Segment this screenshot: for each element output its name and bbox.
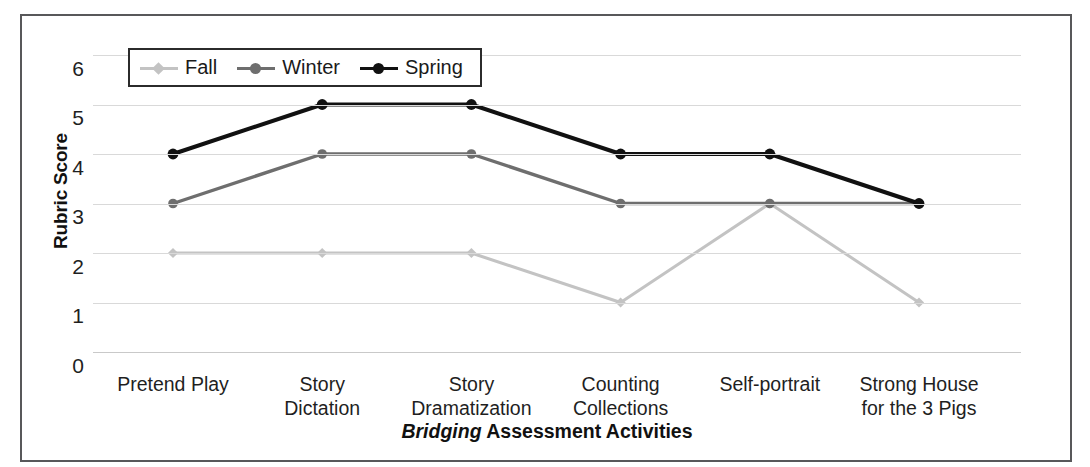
y-tick-4: 4 <box>58 157 84 178</box>
line-chart: Rubric Score 6 5 4 3 2 1 0 Pretend PlayS… <box>22 16 1072 462</box>
y-tick-1: 1 <box>58 305 84 326</box>
scan-artifact-strip <box>0 0 1090 9</box>
x-tick-label-5: Strong Housefor the 3 Pigs <box>824 372 1014 420</box>
gridline-1 <box>93 303 1021 304</box>
legend-swatch-fall-icon <box>140 61 178 75</box>
gridline-0 <box>93 352 1021 353</box>
x-axis-title: Bridging Assessment Activities <box>22 420 1072 443</box>
y-tick-6: 6 <box>58 58 84 79</box>
legend-marker-icon <box>373 63 384 74</box>
x-tick-label-line: for the 3 Pigs <box>824 396 1014 420</box>
legend-entry-fall[interactable]: Fall <box>140 56 217 79</box>
y-tick-2: 2 <box>58 256 84 277</box>
plot-area <box>93 55 1021 352</box>
legend-entry-spring[interactable]: Spring <box>360 56 463 79</box>
x-axis-title-rest: Assessment Activities <box>482 420 693 442</box>
legend-entry-winter[interactable]: Winter <box>237 56 340 79</box>
chart-legend: FallWinterSpring <box>128 48 482 87</box>
figure-frame: Rubric Score 6 5 4 3 2 1 0 Pretend PlayS… <box>20 14 1072 462</box>
x-tick-label-line: Strong House <box>824 372 1014 396</box>
x-tick-label-line: Collections <box>526 396 716 420</box>
legend-label-winter: Winter <box>282 56 340 79</box>
gridline-4 <box>93 154 1021 155</box>
legend-label-fall: Fall <box>185 56 217 79</box>
legend-marker-icon <box>250 63 261 74</box>
gridline-3 <box>93 204 1021 205</box>
legend-swatch-spring-icon <box>360 61 398 75</box>
y-tick-5: 5 <box>58 107 84 128</box>
x-axis-tick-labels: Pretend PlayStoryDictationStoryDramatiza… <box>93 364 1021 426</box>
series-line-winter <box>173 154 919 204</box>
gridline-2 <box>93 253 1021 254</box>
gridline-5 <box>93 105 1021 106</box>
legend-label-spring: Spring <box>405 56 463 79</box>
series-winter <box>168 149 924 208</box>
x-axis-title-emphasis: Bridging <box>401 420 481 442</box>
legend-marker-icon <box>152 62 165 75</box>
legend-swatch-winter-icon <box>237 61 275 75</box>
y-tick-3: 3 <box>58 206 84 227</box>
